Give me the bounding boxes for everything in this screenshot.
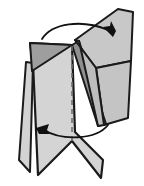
origami-diagram: Origami folding step diagram A folded pa…	[0, 0, 144, 186]
origami-figure-container: Origami folding step diagram A folded pa…	[0, 0, 144, 186]
